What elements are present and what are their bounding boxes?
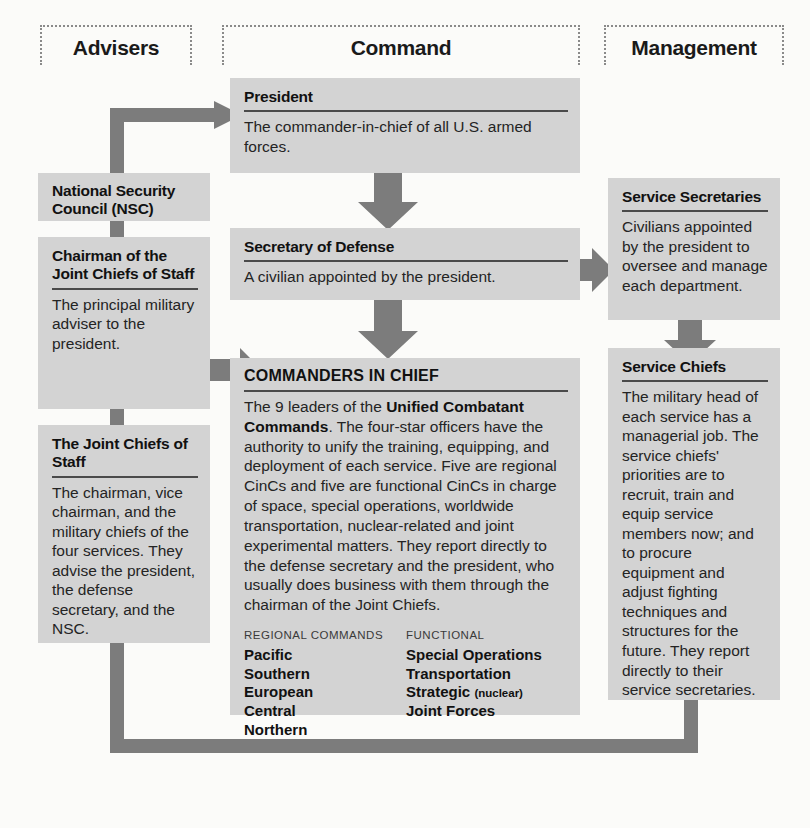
functional-command-item-strategic: Strategic (nuclear) [406, 683, 568, 702]
regional-commands-heading: REGIONAL COMMANDS [244, 629, 406, 641]
box-cinc-body-part2: . The four-star officers have the author… [244, 418, 557, 613]
regional-command-item: Central [244, 702, 406, 721]
column-header-command-label: Command [224, 27, 578, 60]
box-secdef-title: Secretary of Defense [244, 238, 568, 256]
connector-right-riser [684, 700, 698, 753]
box-national-security-council[interactable]: National Security Council (NSC) [38, 173, 210, 221]
box-chairman-joint-chiefs[interactable]: Chairman of the Joint Chiefs of Staff Th… [38, 237, 210, 409]
title-rule [244, 110, 568, 112]
functional-command-item: Special Operations [406, 646, 568, 665]
functional-commands-heading: FUNCTIONAL [406, 629, 568, 641]
box-chairman-title: Chairman of the Joint Chiefs of Staff [52, 247, 198, 284]
arrow-president-to-secdef [358, 168, 418, 230]
column-header-command: Command [222, 25, 580, 65]
functional-command-item: Transportation [406, 665, 568, 684]
box-service-chiefs-body: The military head of each service has a … [622, 387, 768, 699]
functional-command-strategic-label: Strategic [406, 683, 470, 700]
title-rule [622, 210, 768, 212]
arrow-secdef-to-cinc [358, 297, 418, 359]
title-rule [52, 288, 198, 290]
connector-bottom-horizontal [110, 739, 698, 753]
functional-commands-list: FUNCTIONAL Special Operations Transporta… [406, 629, 568, 740]
regional-command-item: Northern [244, 721, 406, 740]
functional-command-item: Joint Forces [406, 702, 568, 721]
regional-command-item: Pacific [244, 646, 406, 665]
box-commanders-in-chief[interactable]: COMMANDERS IN CHIEF The 9 leaders of the… [230, 358, 580, 715]
column-header-management: Management [604, 25, 784, 65]
box-cinc-title: COMMANDERS IN CHIEF [244, 367, 568, 386]
regional-command-item: Southern [244, 665, 406, 684]
title-rule [244, 390, 568, 392]
title-rule [622, 380, 768, 382]
title-rule [52, 476, 198, 478]
box-secretary-of-defense[interactable]: Secretary of Defense A civilian appointe… [230, 228, 580, 300]
box-service-chiefs[interactable]: Service Chiefs The military head of each… [608, 348, 780, 700]
chain-of-command-diagram: Advisers Command Management [0, 0, 810, 828]
box-cinc-body-part1: The 9 leaders of the [244, 398, 386, 415]
column-header-advisers: Advisers [40, 25, 192, 65]
title-rule [244, 260, 568, 262]
box-nsc-title: National Security Council (NSC) [52, 182, 198, 219]
box-president-title: President [244, 88, 568, 106]
box-service-secretaries-body: Civilians appointed by the president to … [622, 217, 768, 295]
box-service-secretaries-title: Service Secretaries [622, 188, 768, 206]
box-cinc-body: The 9 leaders of the Unified Combatant C… [244, 397, 568, 615]
box-president[interactable]: President The commander-in-chief of all … [230, 78, 580, 173]
box-joint-chiefs-of-staff[interactable]: The Joint Chiefs of Staff The chairman, … [38, 425, 210, 643]
box-service-chiefs-title: Service Chiefs [622, 358, 768, 376]
column-header-advisers-label: Advisers [42, 27, 190, 60]
regional-command-item: European [244, 683, 406, 702]
connector-advisers-to-president-horizontal [110, 108, 220, 122]
cinc-command-lists: REGIONAL COMMANDS Pacific Southern Europ… [244, 629, 568, 740]
box-joint-chiefs-title: The Joint Chiefs of Staff [52, 435, 198, 472]
box-chairman-body: The principal military adviser to the pr… [52, 295, 198, 354]
column-header-management-label: Management [606, 27, 782, 60]
functional-command-strategic-qualifier: (nuclear) [474, 687, 523, 699]
box-secdef-body: A civilian appointed by the president. [244, 267, 568, 287]
box-joint-chiefs-body: The chairman, vice chairman, and the mil… [52, 483, 198, 639]
box-president-body: The commander-in-chief of all U.S. armed… [244, 117, 568, 156]
box-service-secretaries[interactable]: Service Secretaries Civilians appointed … [608, 178, 780, 320]
regional-commands-list: REGIONAL COMMANDS Pacific Southern Europ… [244, 629, 406, 740]
